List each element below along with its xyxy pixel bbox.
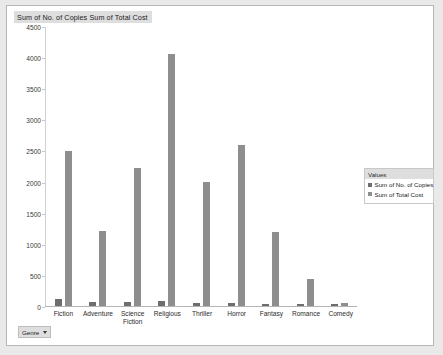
x-axis-tick-label: Science Fiction (115, 310, 150, 326)
y-axis-tick-label: 3500 (26, 86, 41, 93)
y-axis-tick-mark (42, 120, 45, 121)
legend-swatch (368, 192, 372, 196)
y-axis-tick-label: 0 (37, 304, 41, 311)
bar-category-group (219, 27, 254, 306)
bar[interactable] (307, 279, 314, 306)
x-axis-tick-label: Thriller (185, 310, 220, 326)
legend-swatch (368, 183, 372, 187)
bar[interactable] (55, 299, 62, 306)
bar[interactable] (124, 302, 131, 306)
bar[interactable] (89, 302, 96, 306)
bar-category-group (46, 27, 81, 306)
x-axis-line (45, 306, 357, 307)
bar[interactable] (134, 168, 141, 306)
x-axis-tick-label: Religious (150, 310, 185, 326)
bar[interactable] (65, 151, 72, 306)
plot-area: 050010001500200025003000350040004500 (45, 27, 357, 307)
bar-category-group (115, 27, 150, 306)
y-axis-tick-label: 2500 (26, 148, 41, 155)
bar[interactable] (203, 182, 210, 306)
y-axis-tick-mark (42, 245, 45, 246)
bar[interactable] (262, 304, 269, 306)
y-axis-tick-label: 4000 (26, 55, 41, 62)
chart-legend: Values Sum of No. of CopiesSum of Total … (364, 168, 434, 204)
legend-item[interactable]: Sum of Total Cost (368, 191, 430, 198)
bar[interactable] (272, 232, 279, 306)
x-axis-labels: FictionAdventureScience FictionReligious… (46, 310, 358, 326)
legend-item[interactable]: Sum of No. of Copies (368, 181, 430, 188)
y-axis-tick-label: 1000 (26, 241, 41, 248)
bar[interactable] (168, 54, 175, 306)
y-axis-tick-label: 4500 (26, 24, 41, 31)
y-axis-tick-mark (42, 307, 45, 308)
bar-category-group (150, 27, 185, 306)
y-axis-tick-mark (42, 183, 45, 184)
chevron-down-icon[interactable] (43, 331, 47, 334)
genre-field-label: Genre (22, 329, 39, 336)
pivot-chart-frame: Sum of No. of Copies Sum of Total Cost 0… (6, 5, 434, 346)
legend-title: Values (365, 169, 433, 179)
x-axis-tick-label: Romance (289, 310, 324, 326)
y-axis-tick-mark (42, 89, 45, 90)
legend-item-list: Sum of No. of CopiesSum of Total Cost (365, 179, 433, 203)
y-axis-tick-mark (42, 214, 45, 215)
genre-field-button[interactable]: Genre (18, 326, 51, 338)
bar-group (46, 27, 357, 306)
y-axis-tick-label: 3000 (26, 117, 41, 124)
bar[interactable] (158, 301, 165, 306)
y-axis-tick-label: 1500 (26, 210, 41, 217)
y-axis-tick-mark (42, 58, 45, 59)
bar-category-group (81, 27, 116, 306)
bar[interactable] (99, 231, 106, 306)
x-axis-tick-label: Horror (219, 310, 254, 326)
bar-category-group (288, 27, 323, 306)
y-axis-tick-mark (42, 27, 45, 28)
bar[interactable] (228, 303, 235, 306)
y-axis-tick-mark (42, 151, 45, 152)
bar-category-group (184, 27, 219, 306)
x-axis-tick-label: Fiction (46, 310, 81, 326)
bar[interactable] (238, 145, 245, 306)
x-axis-tick-label: Comedy (323, 310, 358, 326)
x-axis-tick-label: Fantasy (254, 310, 289, 326)
bar[interactable] (297, 304, 304, 306)
chart-title: Sum of No. of Copies Sum of Total Cost (14, 11, 152, 23)
legend-item-label: Sum of No. of Copies (375, 181, 434, 188)
bar-category-group (253, 27, 288, 306)
x-axis-tick-label: Adventure (81, 310, 116, 326)
y-axis-tick-mark (42, 276, 45, 277)
bar[interactable] (193, 303, 200, 306)
bar[interactable] (331, 304, 338, 306)
y-axis-tick-label: 2000 (26, 179, 41, 186)
bar-category-group (323, 27, 358, 306)
y-axis-tick-label: 500 (30, 272, 41, 279)
bar[interactable] (341, 303, 348, 306)
legend-item-label: Sum of Total Cost (375, 191, 424, 198)
